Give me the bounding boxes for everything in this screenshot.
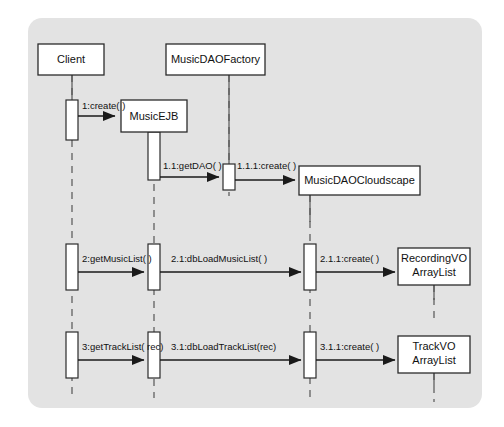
object-trackvo-label-line1: TrackVO <box>413 340 456 352</box>
activation-musicdaocloudscape-2 <box>304 244 316 290</box>
object-musicdaocloudscape[interactable]: MusicDAOCloudscape <box>299 166 420 195</box>
message-label-1-1: 1.1:getDAO( ) <box>163 160 222 171</box>
activation-musicdaocloudscape-3 <box>304 332 316 378</box>
object-musicejb[interactable]: MusicEJB <box>121 100 187 132</box>
object-musicdaofactory-label: MusicDAOFactory <box>171 53 261 65</box>
message-label-2-1-1: 2.1.1:create( ) <box>320 253 379 264</box>
sequence-diagram-svg: Client MusicDAOFactory MusicEJB MusicDAO… <box>0 0 504 427</box>
object-trackvo-label-line2: ArrayList <box>412 354 455 366</box>
message-label-1-1-1: 1.1.1:create( ) <box>237 160 296 171</box>
message-label-3: 3:getTrackList( rec) <box>82 341 163 352</box>
message-label-2: 2:getMusicList( ) <box>82 253 152 264</box>
object-recordingvo-label-line1: RecordingVO <box>401 252 467 264</box>
object-trackvo[interactable]: TrackVO ArrayList <box>398 336 470 373</box>
activation-musicejb-2 <box>148 244 160 290</box>
object-client[interactable]: Client <box>38 44 104 75</box>
object-client-label: Client <box>57 53 85 65</box>
message-label-2-1: 2.1:dbLoadMusicList( ) <box>171 253 267 264</box>
activation-musicejb-1 <box>148 132 160 180</box>
message-label-3-1: 3.1:dbLoadTrackList(rec) <box>171 341 276 352</box>
activation-client-1 <box>66 100 78 140</box>
sequence-diagram-canvas: Client MusicDAOFactory MusicEJB MusicDAO… <box>0 0 504 427</box>
activation-musicdaofactory-1 <box>223 164 235 190</box>
object-recordingvo[interactable]: RecordingVO ArrayList <box>398 248 470 285</box>
object-musicdaocloudscape-label: MusicDAOCloudscape <box>304 174 415 186</box>
message-label-1: 1:create( ) <box>82 100 125 111</box>
object-recordingvo-label-line2: ArrayList <box>412 266 455 278</box>
activation-client-3 <box>66 332 78 378</box>
message-label-3-1-1: 3.1.1:create( ) <box>320 341 379 352</box>
activation-client-2 <box>66 244 78 290</box>
activation-musicejb-3 <box>148 332 160 378</box>
object-musicejb-label: MusicEJB <box>130 110 179 122</box>
object-musicdaofactory[interactable]: MusicDAOFactory <box>166 44 265 75</box>
